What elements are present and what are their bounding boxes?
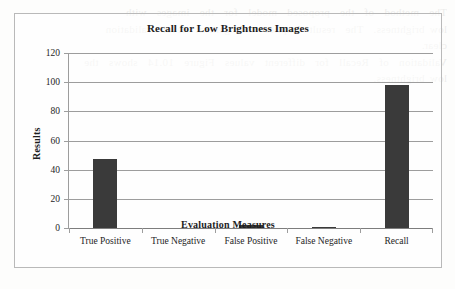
chart-title: Recall for Low Brightness Images: [15, 22, 441, 34]
bar-category-1: True Positive: [69, 53, 142, 228]
bar[interactable]: [93, 159, 117, 228]
y-axis-tick-label: 20: [51, 194, 61, 204]
bar-category-2: True Negative: [142, 53, 215, 228]
bar-series: True PositiveTrue NegativeFalse Positive…: [69, 53, 433, 228]
y-axis-tick-label: 100: [46, 77, 60, 87]
x-axis-tick-label: True Positive: [80, 236, 131, 246]
bar[interactable]: [385, 85, 409, 228]
y-axis-tick-label: 80: [51, 106, 61, 116]
bar-category-4: False Negative: [287, 53, 360, 228]
x-axis-tick-label: False Negative: [295, 236, 352, 246]
x-axis-title: Evaluation Measures: [15, 219, 441, 230]
y-axis-tick-label: 120: [46, 48, 60, 58]
bar-category-3: False Positive: [215, 53, 288, 228]
x-axis-tick-label: True Negative: [151, 236, 205, 246]
plot-area: 020406080100120 True PositiveTrue Negati…: [69, 53, 433, 228]
bar-category-5: Recall: [360, 53, 433, 228]
y-axis-title: Results: [31, 127, 42, 160]
y-axis-tick-label: 60: [51, 136, 61, 146]
x-axis-tick-label: Recall: [384, 236, 408, 246]
x-axis-tick-label: False Positive: [224, 236, 277, 246]
chart-frame: Recall for Low Brightness Images Results…: [14, 13, 442, 268]
y-axis-tick-label: 40: [51, 165, 61, 175]
